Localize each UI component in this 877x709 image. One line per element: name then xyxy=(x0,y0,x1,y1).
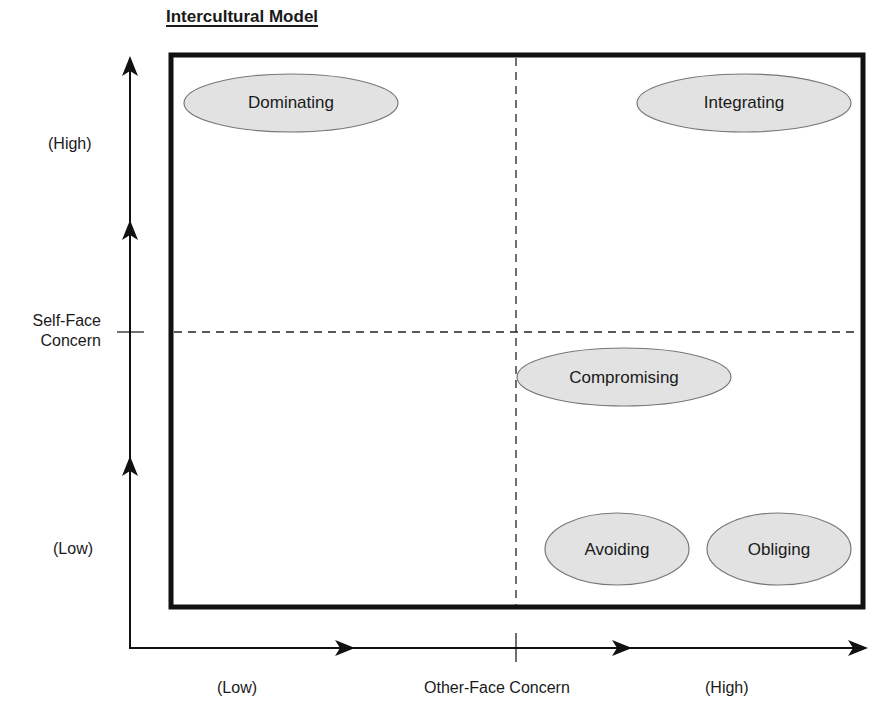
x-axis xyxy=(129,633,866,662)
y-axis-high-label: (High) xyxy=(48,135,92,153)
style-label-dominating: Dominating xyxy=(248,93,334,113)
style-label-obliging: Obliging xyxy=(748,540,810,560)
y-axis xyxy=(117,58,144,648)
x-axis-high-label: (High) xyxy=(705,679,749,697)
style-label-compromising: Compromising xyxy=(569,368,679,388)
x-axis-low-label: (Low) xyxy=(217,679,257,697)
y-axis-title: Self-Face Concern xyxy=(10,311,101,351)
style-label-avoiding: Avoiding xyxy=(585,540,650,560)
x-axis-title: Other-Face Concern xyxy=(424,679,570,697)
y-axis-title-line2: Concern xyxy=(10,331,101,351)
style-label-integrating: Integrating xyxy=(704,93,784,113)
y-axis-low-label: (Low) xyxy=(53,540,93,558)
y-axis-title-line1: Self-Face xyxy=(10,311,101,331)
